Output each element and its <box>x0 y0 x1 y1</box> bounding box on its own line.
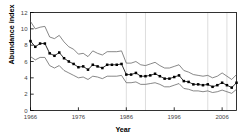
svg-text:1966: 1966 <box>24 114 38 120</box>
svg-text:1996: 1996 <box>168 114 182 120</box>
svg-text:2006: 2006 <box>215 114 229 120</box>
plot-frame <box>31 13 237 111</box>
svg-text:0: 0 <box>24 108 28 114</box>
svg-text:12: 12 <box>21 10 28 16</box>
abundance-index-line <box>31 41 237 88</box>
svg-text:1986: 1986 <box>120 114 134 120</box>
abundance-index-chart: 024681012 19661976198619962006 Abundance… <box>0 0 246 137</box>
x-tick-labels: 19661976198619962006 <box>24 114 230 120</box>
svg-text:2: 2 <box>24 91 28 97</box>
svg-text:4: 4 <box>24 75 28 81</box>
svg-text:6: 6 <box>24 59 28 65</box>
y-axis-title: Abundance index <box>7 0 16 72</box>
upper-confidence-line <box>31 21 237 79</box>
y-tick-labels: 024681012 <box>21 10 28 114</box>
svg-text:8: 8 <box>24 42 28 48</box>
svg-text:1976: 1976 <box>72 114 86 120</box>
svg-text:10: 10 <box>21 26 28 32</box>
chart-canvas: 024681012 19661976198619962006 <box>0 0 246 137</box>
gridlines <box>126 13 227 111</box>
abundance-index-markers <box>29 40 238 89</box>
x-axis-title: Year <box>0 125 246 134</box>
